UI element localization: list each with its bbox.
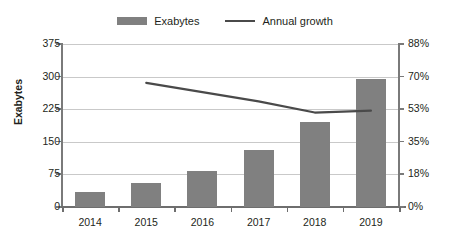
bar-2017 <box>244 150 274 207</box>
tick-x-1 <box>118 207 120 212</box>
bar-2016 <box>187 171 217 207</box>
y-label-left-300: 300 <box>22 70 60 82</box>
tick-right-53 <box>399 108 404 110</box>
gridline-150 <box>62 142 399 143</box>
y-label-left-375: 375 <box>22 37 60 49</box>
tick-x-6 <box>399 207 401 212</box>
y-label-left-150: 150 <box>22 135 60 147</box>
tick-right-70 <box>399 76 404 78</box>
y-label-left-0: 0 <box>22 200 60 212</box>
tick-x-5 <box>343 207 345 212</box>
x-label-2015: 2015 <box>116 216 176 228</box>
bar-2019 <box>356 79 386 207</box>
tick-right-88 <box>399 43 404 45</box>
chart-container: Exabytes Annual growth Exabytes 0 75 150… <box>0 0 450 246</box>
x-label-2017: 2017 <box>229 216 289 228</box>
x-label-2019: 2019 <box>341 216 401 228</box>
legend-item-annual-growth: Annual growth <box>225 15 332 27</box>
line-swatch-icon <box>225 20 255 22</box>
gridline-375 <box>62 44 399 45</box>
bar-swatch-icon <box>117 17 147 25</box>
y-label-right-0: 0% <box>408 200 448 212</box>
tick-x-3 <box>231 207 233 212</box>
plot-area <box>62 44 399 207</box>
x-label-2014: 2014 <box>60 216 120 228</box>
tick-x-4 <box>287 207 289 212</box>
y-label-left-225: 225 <box>22 102 60 114</box>
tick-right-18 <box>399 173 404 175</box>
x-label-2018: 2018 <box>285 216 345 228</box>
tick-right-35 <box>399 141 404 143</box>
chart-legend: Exabytes Annual growth <box>0 10 450 32</box>
gridline-300 <box>62 77 399 78</box>
tick-x-0 <box>62 207 64 212</box>
y-label-left-75: 75 <box>22 167 60 179</box>
tick-x-2 <box>174 207 176 212</box>
legend-item-exabytes: Exabytes <box>117 15 199 27</box>
y-label-right-53: 53% <box>408 102 448 114</box>
x-label-2016: 2016 <box>172 216 232 228</box>
bar-2014 <box>75 192 105 207</box>
gridline-75 <box>62 174 399 175</box>
y-label-right-35: 35% <box>408 135 448 147</box>
y-axis-left-spine <box>61 43 63 208</box>
y-label-right-18: 18% <box>408 167 448 179</box>
y-label-right-88: 88% <box>408 37 448 49</box>
legend-label-exabytes: Exabytes <box>154 15 199 27</box>
legend-label-annual-growth: Annual growth <box>262 15 332 27</box>
bar-2018 <box>300 122 330 207</box>
gridline-225 <box>62 109 399 110</box>
y-axis-right-spine <box>398 43 400 208</box>
bar-2015 <box>131 183 161 207</box>
y-label-right-70: 70% <box>408 70 448 82</box>
